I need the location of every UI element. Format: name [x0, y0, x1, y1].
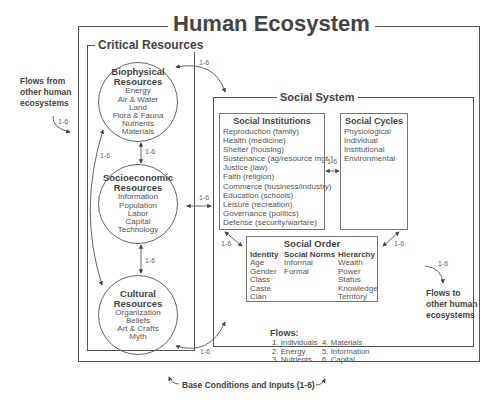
flow-label-institutions-cycles: 1-6: [327, 158, 337, 165]
hierarchy-item: Territory: [338, 293, 378, 301]
institution-item: Sustenance (ag/resource mgt.): [223, 154, 333, 163]
arrow-base-left: [169, 377, 179, 384]
biophysical-item: Materials: [122, 128, 154, 136]
institution-item: Defense (security/warfare): [223, 218, 333, 227]
institution-item: Health (medicine): [223, 136, 333, 145]
flow-label-socio-social: 1-6: [199, 194, 209, 201]
social-cycles-list: Physiological Individual Institutional E…: [344, 127, 395, 163]
cycle-item: Institutional: [344, 145, 395, 154]
flows-to-line: ecosystems: [426, 310, 477, 321]
flows-legend-title: Flows:: [270, 328, 299, 338]
flows-legend-col1: 1. Individuals 2. Energy 3. Nutrients: [272, 339, 318, 365]
flow-label-bio-cultural: 1-6: [100, 152, 110, 159]
institution-item: Education (schools): [223, 191, 333, 200]
flow-label-socio-cultural: 1-6: [145, 257, 155, 264]
social-order-title: Social Order: [246, 238, 378, 249]
human-ecosystem-title: Human Ecosystem: [168, 10, 375, 38]
cultural-item: Myth: [129, 333, 146, 341]
institution-item: Leisure (recreation): [223, 200, 333, 209]
institution-item: Commerce (business/industry): [223, 182, 333, 191]
arrow-base-right: [316, 379, 325, 385]
flows-from-label: Flows from other human ecosystems: [20, 76, 71, 109]
flow-label-institutions-order: 1-6: [221, 240, 231, 247]
social-institutions-title: Social Institutions: [219, 116, 325, 126]
social-cycles-title: Social Cycles: [340, 116, 408, 126]
social-system-title: Social System: [277, 91, 358, 104]
flows-to-line: other human: [426, 299, 477, 310]
socioeconomic-item: Technology: [118, 226, 158, 234]
cycle-item: Individual: [344, 136, 395, 145]
identity-item: Clan: [250, 293, 278, 301]
cycle-item: Environmental: [344, 154, 395, 163]
flows-from-line: ecosystems: [20, 98, 71, 109]
social-institutions-list: Reproduction (family) Health (medicine) …: [223, 127, 333, 227]
social-order-norms-column: Social Norms Informal Formal: [284, 251, 335, 276]
flows-legend-col2: 4. Materials 5. Information 6. Capital: [322, 339, 370, 365]
flows-from-line: Flows from: [20, 76, 71, 87]
institution-item: Faith (religion): [223, 172, 333, 181]
socioeconomic-resources-circle: Socioeconomic Resources Information Popu…: [98, 164, 178, 244]
flow-label-to-other: 1-6: [438, 260, 448, 267]
biophysical-resources-circle: Biophysical Resources Energy Air & Water…: [98, 62, 178, 142]
norms-item: Formal: [284, 268, 335, 276]
institution-item: Reproduction (family): [223, 127, 333, 136]
flow-label-cycles-order: 1-6: [394, 240, 404, 247]
institution-item: Justice (law): [223, 163, 333, 172]
base-conditions-label: Base Conditions and Inputs (1-6): [182, 380, 315, 390]
flow-item: 6. Capital: [322, 356, 370, 365]
flow-item: 3. Nutrients: [272, 356, 318, 365]
flow-label-bio-social: 1-6: [199, 59, 209, 66]
critical-resources-title: Critical Resources: [95, 38, 206, 52]
institution-item: Shelter (housing): [223, 145, 333, 154]
flow-label-bio-socio: 1-6: [145, 148, 155, 155]
cycle-item: Physiological: [344, 127, 395, 136]
cultural-resources-circle: Cultural Resources Organization Beliefs …: [98, 275, 178, 355]
flow-label-from-other: 1-6: [58, 118, 68, 125]
institution-item: Governance (politics): [223, 209, 333, 218]
flow-label-cultural-social: 1-6: [200, 348, 210, 355]
social-order-hierarchy-column: Hierarchy Wealth Power Status Knowledge …: [338, 251, 378, 301]
flows-to-line: Flows to: [426, 288, 477, 299]
flows-from-line: other human: [20, 87, 71, 98]
social-order-identity-column: Identity Age Gender Class Caste Clan: [250, 251, 278, 301]
flows-to-label: Flows to other human ecosystems: [426, 288, 477, 321]
